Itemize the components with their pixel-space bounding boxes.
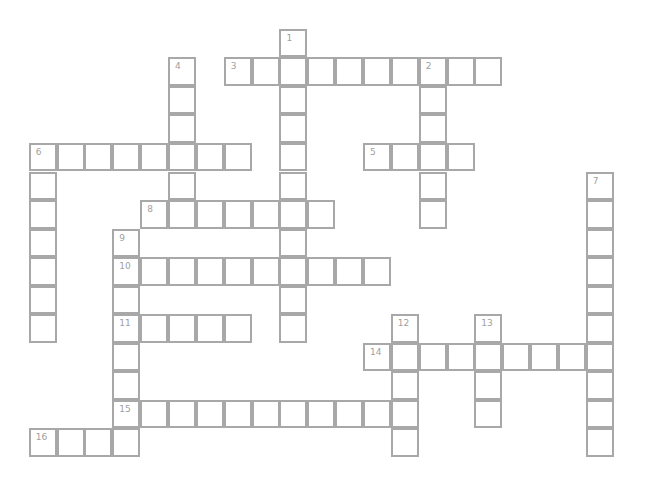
crossword-cell[interactable] (363, 257, 391, 286)
crossword-cell[interactable] (168, 143, 196, 172)
crossword-cell[interactable] (586, 257, 614, 286)
crossword-cell[interactable] (224, 314, 252, 343)
crossword-cell[interactable] (29, 229, 57, 258)
crossword-cell[interactable]: 10 (112, 257, 140, 286)
crossword-cell[interactable] (168, 314, 196, 343)
crossword-cell[interactable] (419, 86, 447, 115)
crossword-cell[interactable] (168, 114, 196, 143)
crossword-cell[interactable] (196, 143, 224, 172)
crossword-cell[interactable] (474, 371, 502, 400)
crossword-cell[interactable] (586, 286, 614, 315)
crossword-cell[interactable] (530, 343, 558, 372)
crossword-cell[interactable] (279, 172, 307, 201)
crossword-cell[interactable] (586, 371, 614, 400)
crossword-cell[interactable]: 16 (29, 428, 57, 457)
crossword-cell[interactable] (279, 314, 307, 343)
crossword-cell[interactable] (140, 314, 168, 343)
crossword-cell[interactable] (335, 400, 363, 429)
crossword-cell[interactable] (279, 400, 307, 429)
crossword-cell[interactable] (586, 343, 614, 372)
crossword-cell[interactable] (112, 343, 140, 372)
crossword-cell[interactable] (391, 343, 419, 372)
crossword-cell[interactable] (29, 257, 57, 286)
crossword-cell[interactable] (335, 257, 363, 286)
crossword-cell[interactable] (474, 400, 502, 429)
crossword-cell[interactable] (391, 400, 419, 429)
crossword-cell[interactable] (279, 229, 307, 258)
crossword-cell[interactable] (224, 143, 252, 172)
crossword-cell[interactable] (391, 371, 419, 400)
crossword-cell[interactable] (57, 428, 85, 457)
crossword-cell[interactable] (84, 428, 112, 457)
crossword-cell[interactable] (168, 200, 196, 229)
crossword-cell[interactable] (279, 286, 307, 315)
crossword-cell[interactable] (279, 86, 307, 115)
crossword-cell[interactable] (196, 314, 224, 343)
crossword-cell[interactable] (586, 229, 614, 258)
crossword-cell[interactable]: 4 (168, 57, 196, 86)
crossword-cell[interactable] (29, 200, 57, 229)
crossword-cell[interactable]: 2 (419, 57, 447, 86)
crossword-cell[interactable] (140, 143, 168, 172)
crossword-cell[interactable]: 6 (29, 143, 57, 172)
crossword-cell[interactable] (57, 143, 85, 172)
crossword-cell[interactable] (391, 57, 419, 86)
crossword-cell[interactable] (196, 400, 224, 429)
crossword-cell[interactable] (447, 57, 475, 86)
crossword-cell[interactable] (224, 200, 252, 229)
crossword-cell[interactable] (224, 400, 252, 429)
crossword-cell[interactable] (196, 257, 224, 286)
crossword-cell[interactable] (419, 114, 447, 143)
crossword-cell[interactable] (307, 257, 335, 286)
crossword-cell[interactable] (419, 200, 447, 229)
crossword-cell[interactable] (29, 286, 57, 315)
crossword-cell[interactable] (447, 143, 475, 172)
crossword-cell[interactable] (391, 143, 419, 172)
crossword-cell[interactable] (586, 314, 614, 343)
crossword-cell[interactable] (279, 57, 307, 86)
crossword-cell[interactable] (363, 57, 391, 86)
crossword-cell[interactable]: 5 (363, 143, 391, 172)
crossword-cell[interactable] (252, 257, 280, 286)
crossword-cell[interactable]: 14 (363, 343, 391, 372)
crossword-cell[interactable]: 8 (140, 200, 168, 229)
crossword-cell[interactable] (447, 343, 475, 372)
crossword-cell[interactable]: 13 (474, 314, 502, 343)
crossword-cell[interactable] (279, 143, 307, 172)
crossword-cell[interactable] (363, 400, 391, 429)
crossword-cell[interactable]: 11 (112, 314, 140, 343)
crossword-cell[interactable]: 12 (391, 314, 419, 343)
crossword-cell[interactable]: 9 (112, 229, 140, 258)
crossword-cell[interactable] (252, 400, 280, 429)
crossword-cell[interactable] (586, 400, 614, 429)
crossword-cell[interactable] (140, 400, 168, 429)
crossword-cell[interactable] (391, 428, 419, 457)
crossword-cell[interactable]: 15 (112, 400, 140, 429)
crossword-cell[interactable] (29, 172, 57, 201)
crossword-cell[interactable]: 7 (586, 172, 614, 201)
crossword-cell[interactable] (474, 343, 502, 372)
crossword-cell[interactable] (502, 343, 530, 372)
crossword-cell[interactable] (586, 428, 614, 457)
crossword-cell[interactable] (279, 257, 307, 286)
crossword-cell[interactable] (112, 286, 140, 315)
crossword-cell[interactable] (279, 200, 307, 229)
crossword-cell[interactable] (84, 143, 112, 172)
crossword-cell[interactable] (335, 57, 363, 86)
crossword-cell[interactable] (419, 343, 447, 372)
crossword-cell[interactable] (252, 57, 280, 86)
crossword-cell[interactable] (419, 172, 447, 201)
crossword-cell[interactable] (29, 314, 57, 343)
crossword-cell[interactable] (168, 172, 196, 201)
crossword-cell[interactable] (307, 400, 335, 429)
crossword-cell[interactable]: 1 (279, 29, 307, 58)
crossword-cell[interactable] (112, 428, 140, 457)
crossword-cell[interactable] (279, 114, 307, 143)
crossword-cell[interactable] (474, 57, 502, 86)
crossword-cell[interactable] (558, 343, 586, 372)
crossword-cell[interactable] (196, 200, 224, 229)
crossword-cell[interactable] (140, 257, 168, 286)
crossword-cell[interactable] (168, 400, 196, 429)
crossword-cell[interactable] (168, 257, 196, 286)
crossword-cell[interactable] (112, 371, 140, 400)
